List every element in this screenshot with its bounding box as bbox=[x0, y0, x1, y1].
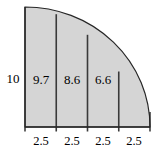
width-label-3: 2.5 bbox=[87, 135, 119, 148]
width-label-4: 2.5 bbox=[118, 135, 150, 148]
strip-value-2: 8.6 bbox=[56, 73, 88, 86]
strip-value-3: 6.6 bbox=[87, 73, 119, 86]
strip-value-1: 9.7 bbox=[25, 73, 57, 86]
width-label-1: 2.5 bbox=[25, 135, 57, 148]
radius-height-label: 10 bbox=[2, 72, 24, 85]
width-label-2: 2.5 bbox=[56, 135, 88, 148]
quarter-circle-riemann-figure: 10 9.7 8.6 6.6 2.5 2.5 2.5 2.5 bbox=[0, 0, 158, 157]
